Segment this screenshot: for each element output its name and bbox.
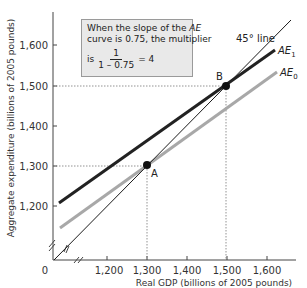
annotation-line-1: When the slope of the AE xyxy=(87,23,187,34)
svg-text:1,200: 1,200 xyxy=(95,265,124,276)
svg-text:1,400: 1,400 xyxy=(19,121,48,132)
y-ticks xyxy=(53,45,57,206)
svg-text:1,500: 1,500 xyxy=(19,81,48,92)
svg-text:1,400: 1,400 xyxy=(173,265,202,276)
multiplier-annotation-box: When the slope of the AE curve is 0.75, … xyxy=(81,19,193,77)
svg-text:1,300: 1,300 xyxy=(133,265,162,276)
ae0-line xyxy=(60,72,277,228)
x-axis-title: Real GDP (billions of 2005 pounds) xyxy=(136,278,292,288)
origin-label: 0 xyxy=(42,265,48,276)
svg-text:1,300: 1,300 xyxy=(19,161,48,172)
ae0-label: AE0 xyxy=(279,67,298,81)
y-axis-title: Aggregate expenditure (billions of 2005 … xyxy=(6,19,16,238)
point-b xyxy=(222,82,230,90)
multiplier-fraction: 1 1 – 0.75 xyxy=(98,48,134,71)
x-tick-labels: 1,200 1,300 1,400 1,500 1,600 xyxy=(95,265,282,276)
svg-text:1,600: 1,600 xyxy=(253,265,282,276)
svg-text:1,600: 1,600 xyxy=(19,40,48,51)
y-tick-labels: 1,600 1,500 1,400 1,300 1,200 xyxy=(19,40,48,212)
svg-text:1,500: 1,500 xyxy=(213,265,242,276)
ae1-label: AE1 xyxy=(277,45,296,59)
forty-five-line-label: 45° line xyxy=(236,33,275,44)
x-ticks xyxy=(107,256,267,260)
annotation-formula: is 1 1 – 0.75 = 4 xyxy=(87,48,187,71)
annotation-line-2: curve is 0.75, the multiplier xyxy=(87,34,187,45)
svg-text:1,200: 1,200 xyxy=(19,201,48,212)
point-a xyxy=(143,161,151,169)
point-b-label: B xyxy=(216,71,223,82)
point-a-label: A xyxy=(151,168,158,179)
